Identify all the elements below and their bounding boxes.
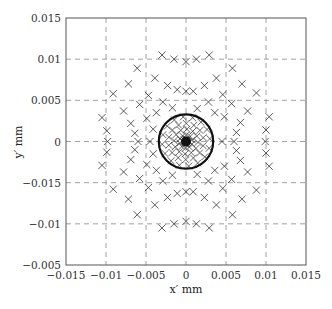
x-marker — [183, 126, 190, 133]
x-marker — [175, 122, 182, 129]
x-marker — [221, 163, 228, 170]
x-marker — [201, 82, 208, 89]
x-marker — [205, 177, 212, 184]
x-marker — [153, 109, 160, 116]
x-marker — [136, 101, 143, 108]
x-marker — [221, 113, 228, 120]
x-marker — [131, 146, 138, 153]
x-marker — [131, 130, 138, 137]
x-marker — [174, 86, 181, 93]
x-marker — [195, 139, 202, 146]
x-marker — [229, 211, 236, 218]
x-marker — [120, 107, 127, 114]
x-marker — [196, 150, 203, 157]
x-marker — [219, 185, 226, 192]
x-marker — [229, 65, 236, 72]
y-axis-ticks: 0.0150.010.0050−0.015−0.01−0.005 — [22, 12, 61, 271]
x-marker — [165, 134, 172, 141]
y-tick-label: −0.01 — [29, 218, 61, 230]
x-marker — [219, 91, 226, 98]
x-marker — [127, 120, 134, 127]
x-marker — [158, 51, 165, 58]
dense-core — [181, 137, 191, 147]
x-marker — [110, 90, 117, 97]
x-marker — [103, 149, 110, 156]
x-marker — [145, 92, 152, 99]
x-marker — [228, 100, 235, 107]
x-marker — [98, 162, 105, 169]
x-marker — [201, 194, 208, 201]
x-marker — [127, 156, 134, 163]
x-marker — [175, 154, 182, 161]
x-marker — [266, 113, 273, 120]
x-marker — [164, 194, 171, 201]
x-marker — [206, 51, 213, 58]
x-marker — [134, 65, 141, 72]
x-marker — [206, 224, 213, 231]
x-tick-label: −0.01 — [90, 269, 122, 281]
x-marker — [266, 163, 273, 170]
x-marker — [143, 115, 150, 122]
x-marker — [244, 168, 251, 175]
x-marker — [169, 104, 176, 111]
x-marker — [190, 88, 197, 95]
x-marker — [145, 184, 152, 191]
x-tick-label: −0.005 — [127, 269, 166, 281]
x-axis-ticks: −0.015−0.01−0.00500.0050.010.015 — [47, 269, 321, 281]
x-marker — [190, 122, 197, 129]
x-marker — [159, 98, 166, 105]
x-marker — [169, 127, 176, 134]
x-marker — [205, 98, 212, 105]
x-marker — [182, 150, 189, 157]
x-marker — [233, 147, 240, 154]
x-marker — [171, 137, 178, 144]
y-axis-label: y′ mm — [12, 125, 25, 160]
x-marker — [153, 167, 160, 174]
x-marker — [238, 80, 245, 87]
x-marker — [159, 177, 166, 184]
x-marker — [237, 157, 244, 164]
x-marker — [244, 107, 251, 114]
y-tick-label: 0 — [54, 136, 61, 148]
x-marker — [143, 161, 150, 168]
x-marker — [125, 80, 132, 87]
x-marker — [134, 211, 141, 218]
x-tick-label: 0.005 — [211, 269, 241, 281]
x-marker — [228, 176, 235, 183]
y-tick-label: 0.005 — [31, 94, 61, 106]
y-tick-label: −0.015 — [22, 177, 61, 189]
x-marker — [253, 89, 260, 96]
x-marker — [103, 127, 110, 134]
x-marker — [253, 186, 260, 193]
y-tick-label: 0.015 — [31, 12, 61, 24]
x-marker — [200, 134, 207, 141]
x-marker — [237, 119, 244, 126]
x-marker — [150, 150, 157, 157]
x-tick-label: 0.015 — [291, 269, 321, 281]
x-marker — [110, 186, 117, 193]
x-marker — [194, 171, 201, 178]
x-marker — [211, 167, 218, 174]
x-marker — [233, 129, 240, 136]
spot-diagram-chart: −0.015−0.01−0.00500.0050.010.015 0.0150.… — [0, 0, 332, 309]
x-marker — [165, 142, 172, 149]
x-marker — [213, 75, 220, 82]
y-tick-label: 0.01 — [38, 53, 61, 65]
x-marker — [164, 82, 171, 89]
x-marker — [98, 114, 105, 121]
x-marker — [211, 109, 218, 116]
x-axis-label: x′ mm — [169, 283, 203, 296]
x-marker — [213, 201, 220, 208]
x-marker — [151, 75, 158, 82]
x-marker — [150, 126, 157, 133]
x-marker — [169, 172, 176, 179]
x-marker — [120, 168, 127, 175]
x-marker — [125, 196, 132, 203]
x-tick-label: 0.01 — [254, 269, 277, 281]
x-marker — [190, 188, 197, 195]
x-marker — [190, 155, 197, 162]
x-marker — [174, 190, 181, 197]
x-marker — [238, 196, 245, 203]
x-tick-label: 0 — [183, 269, 190, 281]
x-marker — [158, 224, 165, 231]
